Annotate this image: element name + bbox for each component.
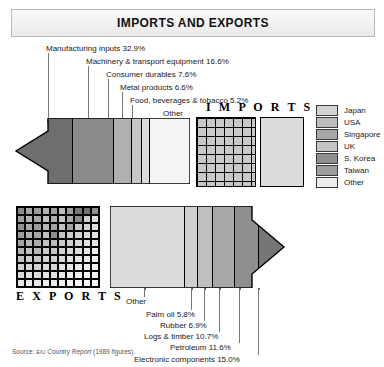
imports-segment-food-beverages <box>141 118 149 184</box>
source-publication: Country Report <box>47 348 91 355</box>
exports-texture-matrix <box>16 206 100 288</box>
imports-caption: I M P O R T S <box>206 100 313 115</box>
legend-item-japan[interactable]: Japan <box>316 104 380 116</box>
export-label-rubber: Rubber 6.9% <box>160 321 207 330</box>
imports-segment-consumer-durables <box>113 118 131 184</box>
legend-swatch-s-korea <box>316 153 338 164</box>
legend-swatch-other <box>316 177 338 188</box>
exports-segment-electronic-components <box>258 206 286 288</box>
export-label-petroleum: Petroleum 11.6% <box>170 343 231 352</box>
exports-segment-palm-oil <box>184 206 197 288</box>
exports-segment-other <box>110 206 184 288</box>
legend-swatch-japan <box>316 105 338 116</box>
source-note: Source: EIU Country Report (1989 figures… <box>12 348 135 355</box>
export-label-palm-oil: Palm oil 5.8% <box>146 310 195 319</box>
leader-line-rubber <box>204 289 205 321</box>
legend-item-other[interactable]: Other <box>316 176 380 188</box>
import-label-consumer-durables: Consumer durables 7.6% <box>106 70 196 79</box>
exports-segment-logs-timber <box>212 206 234 288</box>
leader-line-metal-products <box>122 92 123 121</box>
chart-canvas: IMPORTS AND EXPORTS Manufacturing inputs… <box>0 0 384 367</box>
import-label-manufacturing-inputs: Manufacturing inputs 32.9% <box>46 44 145 53</box>
source-prefix: Source: <box>12 348 34 355</box>
legend-item-uk[interactable]: UK <box>316 140 380 152</box>
legend-item-singapore[interactable]: Singapore <box>316 128 380 140</box>
source-note-figures: (1989 figures). <box>93 348 135 355</box>
leader-line-machinery-transport <box>88 66 89 121</box>
legend-label-singapore: Singapore <box>344 130 380 139</box>
legend: Japan USA Singapore UK S. Korea Taiwan O… <box>316 104 380 188</box>
legend-swatch-singapore <box>316 129 338 140</box>
exports-arrow-chart <box>110 206 286 288</box>
leader-line-logs-timber <box>219 289 220 332</box>
page-title: IMPORTS AND EXPORTS <box>11 9 375 37</box>
exports-caption: E X P O R T S <box>16 289 123 304</box>
legend-label-other: Other <box>344 178 364 187</box>
export-label-other: Other <box>126 297 146 306</box>
legend-item-s-korea[interactable]: S. Korea <box>316 152 380 164</box>
imports-segment-other <box>149 118 190 184</box>
exports-segment-rubber <box>197 206 212 288</box>
leader-line-consumer-durables <box>108 79 109 121</box>
page-title-text: IMPORTS AND EXPORTS <box>117 16 269 30</box>
legend-label-japan: Japan <box>344 106 366 115</box>
imports-arrow-chart <box>14 118 190 184</box>
import-label-metal-products: Metal products 6.6% <box>120 83 193 92</box>
legend-label-uk: UK <box>344 142 355 151</box>
leader-line-electronic-components <box>258 289 259 355</box>
exports-segment-petroleum <box>234 206 258 288</box>
import-label-machinery-transport: Machinery & transport equipment 16.6% <box>86 57 229 66</box>
leader-line-palm-oil <box>191 289 192 310</box>
leader-line-petroleum <box>239 289 240 343</box>
imports-segment-manufacturing-inputs <box>14 118 72 184</box>
imports-segment-machinery-transport <box>72 118 113 184</box>
source-org: EIU <box>36 349 45 355</box>
legend-label-s-korea: S. Korea <box>344 154 375 163</box>
imports-other-box <box>260 117 304 187</box>
export-label-logs-timber: Logs & timber 10.7% <box>144 332 218 341</box>
imports-texture-box <box>196 117 256 187</box>
leader-line-export-other <box>144 289 145 297</box>
import-label-other: Other <box>163 109 183 118</box>
imports-segment-metal-products <box>131 118 141 184</box>
legend-swatch-uk <box>316 141 338 152</box>
legend-label-taiwan: Taiwan <box>344 166 369 175</box>
legend-swatch-usa <box>316 117 338 128</box>
leader-line-manufacturing-inputs <box>48 53 49 121</box>
legend-swatch-taiwan <box>316 165 338 176</box>
legend-label-usa: USA <box>344 118 360 127</box>
legend-item-taiwan[interactable]: Taiwan <box>316 164 380 176</box>
legend-item-usa[interactable]: USA <box>316 116 380 128</box>
export-label-electronic-components: Electronic components 15.0% <box>134 355 240 364</box>
